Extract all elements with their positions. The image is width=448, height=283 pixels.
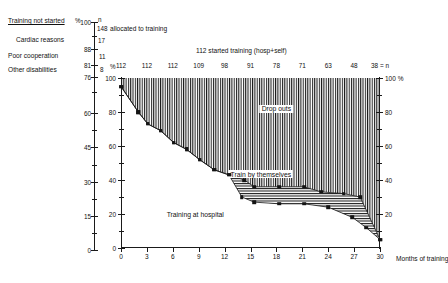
x-tick-9 — [199, 247, 200, 252]
legend-n-1: 17 — [98, 38, 105, 44]
outer-tick-label-60: 60 — [84, 110, 91, 117]
inner-axis-unit-left: % — [110, 64, 116, 70]
x-tick-label-3: 3 — [145, 253, 149, 260]
data-point — [378, 238, 382, 242]
data-point — [364, 226, 368, 230]
data-point — [119, 85, 123, 89]
x-tick-label-9: 9 — [197, 253, 201, 260]
x-tick-label-6: 6 — [171, 253, 175, 260]
outer-tick-label-81: 81 — [84, 62, 91, 69]
n-label-month-27: 48 — [351, 62, 358, 69]
x-tick-6 — [173, 247, 174, 252]
x-tick-27 — [354, 247, 355, 252]
x-tick-30 — [380, 247, 381, 252]
x-tick-label-0: 0 — [119, 253, 123, 260]
x-axis-caption-line1: Months of training — [396, 256, 448, 263]
data-point — [358, 195, 362, 199]
data-point — [227, 173, 231, 177]
data-point — [243, 178, 247, 182]
x-tick-24 — [328, 247, 329, 252]
outer-tick-label-88: 88 — [84, 46, 91, 53]
x-tick-label-24: 24 — [325, 253, 332, 260]
data-point — [146, 122, 150, 126]
started-training-header: 112 started training (hosp+self) — [196, 47, 287, 54]
x-tick-label-15: 15 — [247, 253, 254, 260]
x-tick-12 — [225, 247, 226, 252]
n-label-month-0: 112 — [116, 62, 126, 69]
x-tick-label-21: 21 — [299, 253, 306, 260]
data-point — [240, 195, 244, 199]
region-label-drop-outs: Drop outs — [260, 105, 293, 113]
data-point — [302, 185, 306, 189]
n-label-month-6: 112 — [168, 62, 178, 69]
y-right-label-60: 60 — [385, 143, 392, 150]
data-point — [198, 158, 202, 162]
y-tick-label-60: 60 — [109, 143, 116, 150]
legend-n-header: n — [98, 17, 102, 23]
n-label-month-9: 109 — [193, 62, 204, 69]
y-tick-label-0: 0 — [112, 245, 116, 252]
data-point — [172, 141, 176, 145]
legend-n-2: 11 — [99, 54, 106, 60]
outer-tick-label-30: 30 — [84, 178, 91, 185]
region-label-training-at-hospital: Training at hospital — [165, 210, 226, 218]
outer-tick-label-76: 76 — [84, 73, 91, 80]
legend-n-0: 148 — [97, 26, 108, 32]
x-tick-label-30: 30 — [376, 253, 383, 260]
x-tick-label-18: 18 — [273, 253, 280, 260]
legend-label-3: Other disabilities — [8, 67, 57, 74]
x-tick-label-12: 12 — [221, 253, 228, 260]
data-point — [302, 202, 306, 206]
y-right-label-100: 100 % — [385, 75, 403, 82]
data-point — [351, 216, 355, 220]
data-point — [159, 129, 163, 133]
data-point — [252, 200, 256, 204]
shaded-regions — [121, 78, 380, 248]
outer-tick-label-15: 15 — [84, 212, 91, 219]
x-tick-3 — [147, 247, 148, 252]
y-right-label-20: 20 — [385, 211, 392, 218]
n-label-month-12: 98 — [221, 62, 228, 69]
x-tick-15 — [251, 247, 252, 252]
data-point — [136, 110, 140, 114]
data-point — [185, 148, 189, 152]
n-label-month-18: 78 — [273, 62, 280, 69]
data-point — [212, 168, 216, 172]
y-tick-label-40: 40 — [109, 177, 116, 184]
x-tick-label-27: 27 — [350, 253, 357, 260]
legend-label-1: Cardiac reasons — [16, 37, 64, 44]
data-point — [277, 185, 281, 189]
n-label-month-15: 91 — [247, 62, 254, 69]
y-tick-label-20: 20 — [109, 211, 116, 218]
outer-percent-axis: 100 88 81 76 60 45 30 15 0 — [94, 22, 95, 250]
legend-n-3: 8 — [100, 67, 104, 73]
n-label-month-24: 63 — [325, 62, 332, 69]
y-tick-label-80: 80 — [109, 109, 116, 116]
data-point — [319, 190, 323, 194]
allocated-header: allocated to training — [110, 25, 167, 32]
plot-area: 100 80 60 40 20 0 100 % 80 60 40 20 0369… — [121, 78, 380, 248]
n-label-month-30: 38 = n — [371, 62, 389, 69]
y-right-label-40: 40 — [385, 177, 392, 184]
region-label-train-by-themselves: Train by themselves — [229, 170, 294, 178]
x-tick-21 — [302, 247, 303, 252]
outer-tick-label-45: 45 — [84, 144, 91, 151]
n-label-month-21: 71 — [299, 62, 306, 69]
outer-tick-label-100: 100 — [80, 19, 91, 26]
data-point — [277, 202, 281, 206]
data-point — [342, 192, 346, 196]
x-tick-18 — [276, 247, 277, 252]
x-tick-0 — [121, 247, 122, 252]
data-point — [326, 205, 330, 209]
y-right-label-80: 80 — [385, 109, 392, 116]
legend-label-0: Training not started — [8, 18, 65, 25]
data-point — [252, 185, 256, 189]
y-tick-label-100: 100 — [105, 75, 116, 82]
n-label-month-3: 112 — [142, 62, 152, 69]
legend-label-2: Poor cooperation — [8, 53, 58, 60]
